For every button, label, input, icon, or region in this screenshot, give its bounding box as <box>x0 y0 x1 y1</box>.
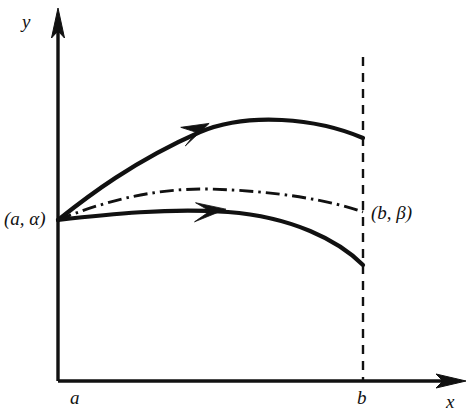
y-axis <box>52 8 65 381</box>
lower-comparison-curve-path <box>58 211 363 265</box>
upper-comparison-curve <box>58 118 363 220</box>
x-tick-label-b: b <box>357 388 367 407</box>
lower-comparison-curve <box>58 201 363 265</box>
x-axis-label: x <box>446 392 454 411</box>
upper-curve-direction-arrow-icon <box>179 118 214 146</box>
figure-container: y x a b (a, α) (b, β) <box>0 0 473 419</box>
upper-comparison-curve-path <box>58 120 363 220</box>
left-endpoint-label: (a, α) <box>4 209 46 228</box>
y-axis-label: y <box>22 12 30 31</box>
x-tick-label-a: a <box>70 388 80 407</box>
right-endpoint-label: (b, β) <box>371 203 412 222</box>
x-axis <box>58 374 466 388</box>
